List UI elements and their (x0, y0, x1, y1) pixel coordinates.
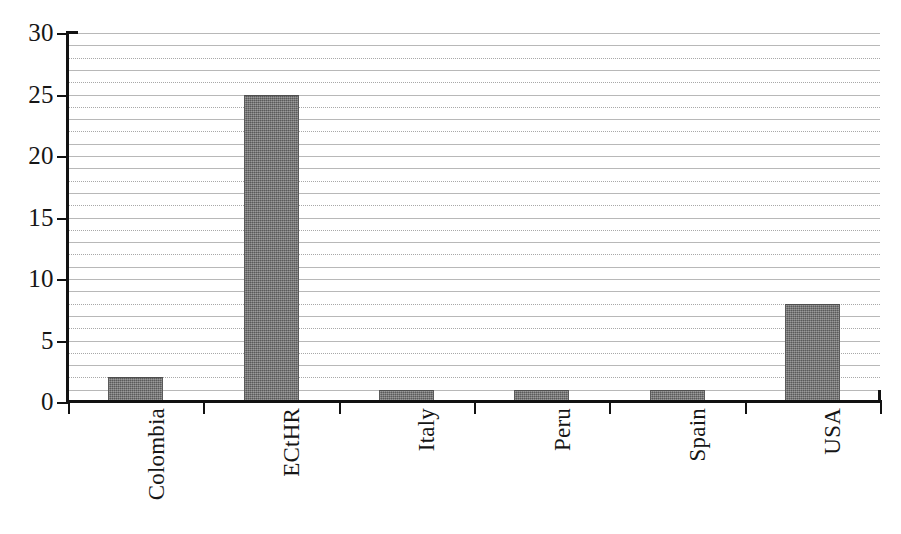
y-tick (57, 341, 67, 343)
gridline (68, 205, 880, 206)
figure-alt-text: Bar chart of counts by jurisdiction: Col… (0, 0, 1, 1)
gridline (68, 181, 880, 182)
x-category-label-colombia: Colombia (145, 408, 168, 500)
y-tick (57, 218, 67, 220)
bar-ecthr (244, 95, 299, 403)
gridline (68, 33, 880, 34)
gridline (68, 95, 880, 96)
bar-chart-figure: 051015202530 ColombiaECtHRItalyPeruSpain… (0, 0, 901, 534)
gridline (68, 156, 880, 157)
gridline (68, 230, 880, 231)
x-tick (203, 402, 205, 414)
y-tick-label: 0 (0, 389, 54, 414)
gridline (68, 58, 880, 59)
gridline (68, 144, 880, 145)
y-tick (57, 95, 67, 97)
x-tick (745, 402, 747, 414)
x-category-label-ecthr: ECtHR (280, 408, 303, 477)
gridline (68, 107, 880, 108)
gridline (68, 168, 880, 169)
bar-usa (785, 304, 840, 402)
y-tick-label: 20 (0, 143, 54, 168)
y-tick-label: 5 (0, 328, 54, 353)
gridline (68, 82, 880, 83)
gridline (68, 377, 880, 378)
y-tick (57, 279, 67, 281)
gridline (68, 316, 880, 317)
y-tick (57, 402, 67, 404)
x-category-label-usa: USA (821, 408, 844, 455)
x-tick (880, 402, 882, 414)
y-tick-label: 10 (0, 266, 54, 291)
gridline (68, 131, 880, 132)
y-tick (57, 156, 67, 158)
bar-colombia (108, 377, 163, 402)
x-tick (609, 402, 611, 414)
gridline (68, 365, 880, 366)
gridline (68, 304, 880, 305)
y-tick (57, 33, 67, 35)
gridline (68, 218, 880, 219)
gridline (68, 254, 880, 255)
gridline (68, 45, 880, 46)
x-category-label-italy: Italy (415, 408, 438, 451)
gridline (68, 70, 880, 71)
gridline (68, 341, 880, 342)
gridline (68, 291, 880, 292)
x-category-label-peru: Peru (551, 408, 574, 451)
gridline (68, 242, 880, 243)
y-tick-label: 30 (0, 20, 54, 45)
x-category-label-spain: Spain (686, 408, 709, 461)
y-tick-label: 25 (0, 82, 54, 107)
gridline (68, 193, 880, 194)
gridline (68, 390, 880, 391)
y-axis-top-cap (66, 31, 78, 34)
gridline (68, 267, 880, 268)
plot-area (68, 33, 880, 402)
gridline (68, 328, 880, 329)
y-tick-label: 15 (0, 205, 54, 230)
x-tick (474, 402, 476, 414)
x-tick (339, 402, 341, 414)
gridline (68, 119, 880, 120)
gridline (68, 353, 880, 354)
x-tick (68, 402, 70, 414)
gridline (68, 279, 880, 280)
